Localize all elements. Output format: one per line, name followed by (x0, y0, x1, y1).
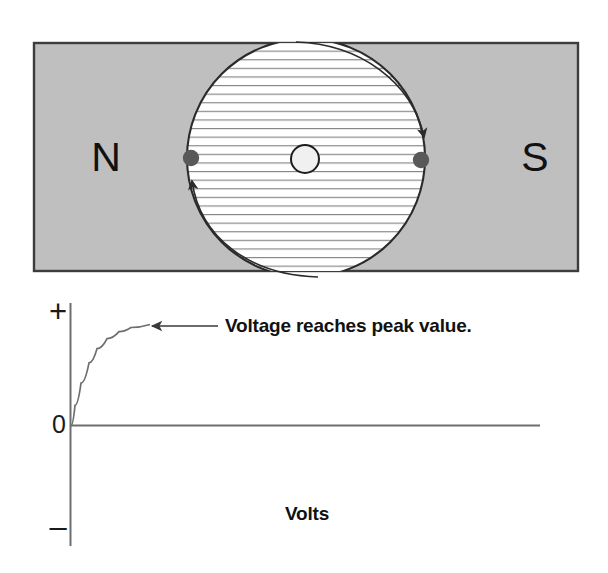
y-axis-zero-label: 0 (52, 410, 66, 438)
y-axis-negative-label: – (49, 509, 67, 544)
coil-dot-right (413, 152, 429, 168)
magnet-assembly: N S (34, 39, 578, 277)
generator-diagram: N S + 0 – V (0, 0, 608, 573)
figure-canvas: N S + 0 – V (0, 0, 608, 573)
south-pole-label: S (521, 134, 548, 180)
armature-core (291, 145, 319, 173)
coil-dot-left (183, 150, 199, 166)
voltage-graph: + 0 – Voltage reaches peak value. Volts (49, 294, 540, 546)
north-pole-label: N (91, 134, 121, 180)
voltage-curve (71, 325, 150, 426)
volts-axis-label: Volts (285, 503, 329, 524)
peak-value-annotation: Voltage reaches peak value. (225, 315, 472, 336)
y-axis-positive-label: + (49, 294, 67, 329)
